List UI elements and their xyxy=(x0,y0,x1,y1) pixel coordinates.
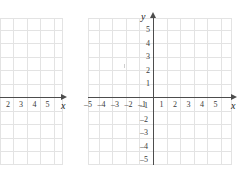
right-y-tick-label: –3 xyxy=(136,129,148,137)
gridline-vertical xyxy=(27,18,28,165)
left-x-tick-label: 2 xyxy=(2,101,14,109)
right-y-tick-label: –2 xyxy=(136,116,148,124)
right-x-tick-label: 2 xyxy=(169,101,181,109)
gridline-vertical xyxy=(99,18,100,165)
right-grid xyxy=(88,18,232,165)
right-x-tick-label: 5 xyxy=(210,101,222,109)
right-y-axis-line xyxy=(153,18,154,165)
right-y-tick-label: –5 xyxy=(136,156,148,164)
right-x-tick-label: –2 xyxy=(123,101,135,109)
right-y-tick-label: –4 xyxy=(136,143,148,151)
right-y-tick-label: 5 xyxy=(138,26,150,34)
gridline-vertical xyxy=(221,18,222,165)
gridline-horizontal xyxy=(88,43,232,44)
left-x-tick-label: 5 xyxy=(42,101,54,109)
gridline-horizontal xyxy=(0,57,63,58)
right-x-tick-label: –4 xyxy=(96,101,108,109)
gridline-vertical xyxy=(112,18,113,165)
right-x-tick-label: –5 xyxy=(82,101,94,109)
gridline-horizontal xyxy=(88,151,232,152)
right-y-axis-arrow-icon xyxy=(150,12,156,18)
gridline-vertical xyxy=(231,18,232,165)
gridline-horizontal xyxy=(88,164,232,165)
right-x-tick-label: –3 xyxy=(109,101,121,109)
gridline-horizontal xyxy=(88,57,232,58)
left-x-axis-line xyxy=(0,97,62,98)
gridline-horizontal xyxy=(88,138,232,139)
gridline-horizontal xyxy=(88,111,232,112)
right-y-tick-label: 2 xyxy=(138,67,150,75)
gridline-horizontal xyxy=(0,164,63,165)
stray-mark xyxy=(124,64,125,68)
gridline-horizontal xyxy=(0,43,63,44)
gridline-horizontal xyxy=(0,151,63,152)
gridline-vertical xyxy=(126,18,127,165)
right-y-tick-label: –1 xyxy=(136,102,148,110)
right-x-tick-label: 3 xyxy=(183,101,195,109)
left-coordinate-plane: x 2 3 4 5 xyxy=(0,0,70,177)
right-y-axis-label: y xyxy=(141,12,145,22)
gridline-horizontal xyxy=(88,18,232,19)
right-y-tick-label: 4 xyxy=(138,40,150,48)
gridline-vertical xyxy=(40,18,41,165)
gridline-horizontal xyxy=(88,124,232,125)
right-y-tick-label: 3 xyxy=(138,53,150,61)
gridline-horizontal xyxy=(88,84,232,85)
gridline-horizontal xyxy=(0,70,63,71)
right-x-axis-line xyxy=(88,97,232,98)
gridline-vertical xyxy=(13,18,14,165)
gridline-horizontal xyxy=(0,124,63,125)
gridline-horizontal xyxy=(0,138,63,139)
gridline-vertical xyxy=(54,18,55,165)
figure-canvas: x 2 3 4 5 xyxy=(0,0,251,177)
left-grid xyxy=(0,18,63,165)
left-x-tick-label: 4 xyxy=(29,101,41,109)
right-y-tick-label: 1 xyxy=(138,80,150,88)
gridline-horizontal xyxy=(88,30,232,31)
gridline-vertical xyxy=(88,18,89,165)
gridline-horizontal xyxy=(0,30,63,31)
right-x-axis-label: x xyxy=(231,101,235,111)
right-x-tick-label: 1 xyxy=(156,101,168,109)
gridline-vertical xyxy=(207,18,208,165)
gridline-vertical xyxy=(0,18,1,165)
left-x-tick-label: 3 xyxy=(15,101,27,109)
left-x-axis-label: x xyxy=(61,101,65,111)
gridline-vertical xyxy=(62,18,63,165)
gridline-horizontal xyxy=(88,70,232,71)
gridline-vertical xyxy=(194,18,195,165)
gridline-vertical xyxy=(180,18,181,165)
gridline-horizontal xyxy=(0,18,63,19)
right-x-tick-label: 4 xyxy=(196,101,208,109)
gridline-vertical xyxy=(167,18,168,165)
gridline-horizontal xyxy=(0,84,63,85)
right-coordinate-plane: x y –5 –4 –3 –2 –1 1 2 3 4 5 5 4 3 2 1 –… xyxy=(88,0,251,177)
gridline-horizontal xyxy=(0,111,63,112)
